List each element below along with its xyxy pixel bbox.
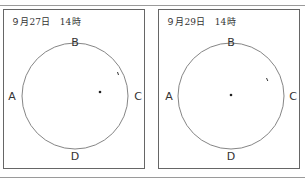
label-left: A [165,90,173,103]
label-top: B [227,36,235,49]
bottom-rule [0,177,305,178]
outline-circle [22,43,128,149]
label-right: C [289,90,297,103]
label-left: A [8,90,16,103]
label-top: B [71,36,79,49]
center-dot [230,94,233,97]
tick-mark [118,72,119,75]
label-right: C [134,90,142,103]
panel-sep-29: ９月29日 14時 B A C D [158,9,300,169]
label-bottom: D [71,150,79,163]
top-rule [0,5,305,6]
center-dot [99,91,102,94]
circle-diagram: B A C D [4,10,146,170]
label-bottom: D [227,150,235,163]
panel-sep-27: ９月27日 14時 B A C D [3,9,145,169]
circle-diagram: B A C D [159,10,301,170]
tick-mark [267,78,268,81]
